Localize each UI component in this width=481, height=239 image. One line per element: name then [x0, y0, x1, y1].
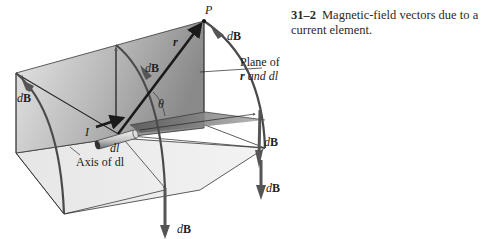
point-P: [202, 19, 206, 23]
label-axis-of-dl: Axis of dl: [76, 155, 125, 169]
magnetic-field-diagram: P r θ I dl Axis of dl Plane of r and dl …: [0, 0, 330, 239]
label-dl: dl: [110, 141, 120, 155]
caption-text: Magnetic-field vectors due to a current …: [291, 8, 478, 37]
label-r: r: [173, 35, 178, 49]
figure-caption: 31–2Magnetic-field vectors due to a curr…: [291, 8, 481, 38]
label-dB-left: dB: [17, 91, 31, 105]
label-theta: θ: [158, 97, 164, 111]
label-P: P: [204, 3, 213, 17]
label-dB-right-1: dB: [264, 135, 278, 149]
label-plane-line1: Plane of: [240, 55, 280, 69]
label-dB-mid: dB: [145, 61, 159, 75]
label-plane-line2: r and dl: [240, 69, 279, 83]
floor-surface: [16, 138, 265, 214]
label-dB-top: dB: [227, 29, 241, 43]
caption-number: 31–2: [291, 8, 316, 22]
label-dB-bottom: dB: [177, 222, 191, 236]
label-dB-right-2: dB: [266, 181, 280, 195]
